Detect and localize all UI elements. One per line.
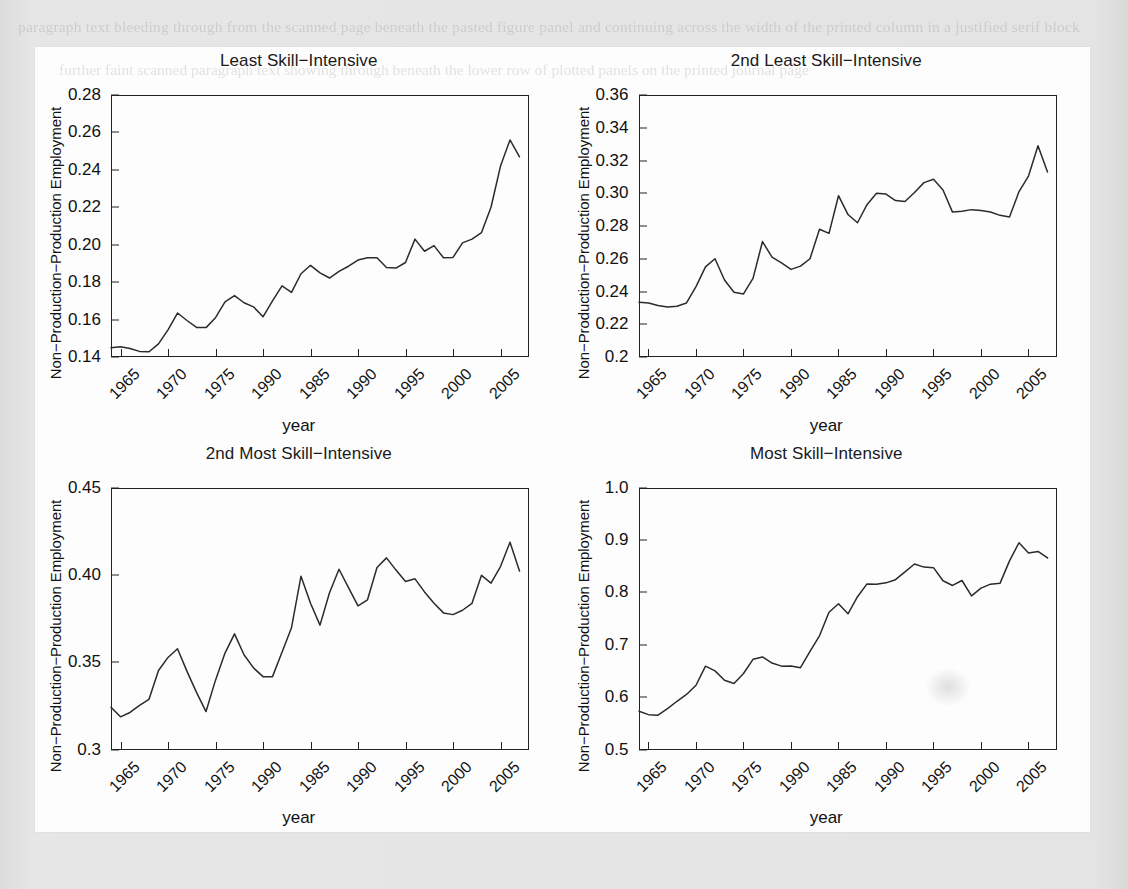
- x-tick-label: 1985: [295, 365, 333, 403]
- y-tick-label: 0.2: [605, 347, 629, 367]
- x-tick-label: 2005: [1013, 365, 1051, 403]
- y-axis-label: Non−Production−Production Employment: [574, 107, 591, 379]
- series-line: [111, 488, 529, 750]
- y-tick-label: 0.35: [68, 652, 101, 672]
- x-tick-label: 2000: [438, 365, 476, 403]
- y-tick-label: 0.16: [68, 310, 101, 330]
- chart-panel-3: Most Skill−IntensiveNon−Production−Produ…: [563, 440, 1091, 833]
- y-tick-label: 0.28: [595, 216, 628, 236]
- x-axis-label: year: [35, 416, 563, 436]
- x-tick-label: 2000: [438, 758, 476, 796]
- plot-area: 0.140.160.180.200.220.240.260.2819651970…: [111, 95, 529, 357]
- x-tick-label: 2005: [1013, 758, 1051, 796]
- x-tick-label: 1965: [633, 758, 671, 796]
- x-tick-label: 1975: [200, 758, 238, 796]
- plot-area: 0.50.60.70.80.91.01965197019751990198519…: [639, 488, 1057, 750]
- x-tick-label: 1990: [870, 758, 908, 796]
- x-tick-label: 2005: [485, 758, 523, 796]
- x-tick-label: 1970: [153, 758, 191, 796]
- plot-area: 0.20.220.240.260.280.300.320.340.3619651…: [639, 95, 1057, 357]
- y-tick-label: 1.0: [605, 478, 629, 498]
- x-tick-label: 1975: [728, 758, 766, 796]
- chart-title: 2nd Most Skill−Intensive: [35, 444, 563, 464]
- x-tick-label: 1965: [105, 758, 143, 796]
- chart-title: Least Skill−Intensive: [35, 51, 563, 71]
- y-tick-label: 0.22: [68, 197, 101, 217]
- y-tick-label: 0.20: [68, 235, 101, 255]
- x-axis-label: year: [563, 808, 1091, 828]
- y-tick-label: 0.8: [605, 582, 629, 602]
- y-tick-label: 0.30: [595, 183, 628, 203]
- y-tick-label: 0.26: [68, 122, 101, 142]
- y-tick-label: 0.40: [68, 565, 101, 585]
- y-tick-label: 0.6: [605, 687, 629, 707]
- x-axis-label: year: [563, 416, 1091, 436]
- x-tick-label: 1995: [390, 365, 428, 403]
- y-tick-label: 0.7: [605, 635, 629, 655]
- x-tick-label: 1990: [775, 758, 813, 796]
- y-tick-label: 0.22: [595, 314, 628, 334]
- y-tick-label: 0.32: [595, 151, 628, 171]
- x-tick-label: 1975: [728, 365, 766, 403]
- series-line: [111, 95, 529, 357]
- x-tick-label: 1965: [105, 365, 143, 403]
- x-tick-label: 1995: [390, 758, 428, 796]
- chart-grid: Least Skill−IntensiveNon−Production−Prod…: [35, 47, 1090, 832]
- x-tick-label: 1985: [823, 365, 861, 403]
- y-axis-label: Non−Production−Production Employment: [574, 500, 591, 772]
- y-tick-label: 0.28: [68, 85, 101, 105]
- x-tick-label: 1970: [153, 365, 191, 403]
- x-tick-label: 1970: [680, 758, 718, 796]
- y-tick-label: 0.26: [595, 249, 628, 269]
- x-tick-label: 1990: [248, 365, 286, 403]
- y-tick-label: 0.18: [68, 272, 101, 292]
- y-axis-label: Non−Production−Production Employment: [47, 107, 64, 379]
- chart-title: Most Skill−Intensive: [563, 444, 1091, 464]
- x-tick-label: 1985: [295, 758, 333, 796]
- plot-area: 0.30.350.400.451965197019751990198519901…: [111, 488, 529, 750]
- y-tick-label: 0.45: [68, 478, 101, 498]
- chart-title: 2nd Least Skill−Intensive: [563, 51, 1091, 71]
- x-tick-label: 1985: [823, 758, 861, 796]
- x-axis-label: year: [35, 808, 563, 828]
- x-tick-label: 1975: [200, 365, 238, 403]
- y-tick-label: 0.14: [68, 347, 101, 367]
- y-axis-label: Non−Production−Production Employment: [47, 500, 64, 772]
- y-tick-label: 0.5: [605, 740, 629, 760]
- chart-panel-2: 2nd Most Skill−IntensiveNon−Production−P…: [35, 440, 563, 833]
- y-tick-label: 0.34: [595, 118, 628, 138]
- y-tick-label: 0.24: [68, 160, 101, 180]
- x-tick-label: 1970: [680, 365, 718, 403]
- series-line: [639, 95, 1057, 357]
- y-tick-label: 0.24: [595, 282, 628, 302]
- chart-panel-1: 2nd Least Skill−IntensiveNon−Production−…: [563, 47, 1091, 440]
- chart-panel-0: Least Skill−IntensiveNon−Production−Prod…: [35, 47, 563, 440]
- x-tick-label: 2000: [965, 365, 1003, 403]
- x-tick-label: 2005: [485, 365, 523, 403]
- series-line: [639, 488, 1057, 750]
- x-tick-label: 1990: [870, 365, 908, 403]
- y-tick-label: 0.9: [605, 530, 629, 550]
- x-tick-label: 1995: [918, 365, 956, 403]
- figure-panel: further faint scanned paragraph text sho…: [35, 47, 1090, 832]
- x-tick-label: 1990: [248, 758, 286, 796]
- x-tick-label: 1965: [633, 365, 671, 403]
- y-tick-label: 0.3: [77, 740, 101, 760]
- x-tick-label: 1995: [918, 758, 956, 796]
- x-tick-label: 1990: [343, 758, 381, 796]
- x-tick-label: 1990: [343, 365, 381, 403]
- x-tick-label: 2000: [965, 758, 1003, 796]
- x-tick-label: 1990: [775, 365, 813, 403]
- y-tick-label: 0.36: [595, 85, 628, 105]
